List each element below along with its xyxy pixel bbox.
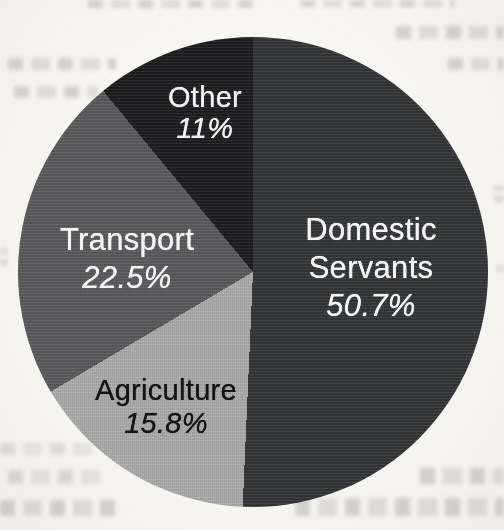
slice-percent-domestic-servants: 50.7% xyxy=(266,287,476,325)
slice-label-other: Other 11% xyxy=(130,82,280,144)
slice-name-domestic-servants: Domestic Servants xyxy=(266,211,476,287)
slice-label-agriculture: Agriculture 15.8% xyxy=(69,374,264,440)
slice-name-transport: Transport xyxy=(32,221,222,259)
slice-name-other: Other xyxy=(130,82,280,113)
slice-percent-agriculture: 15.8% xyxy=(69,407,264,440)
pie-chart-figure: Domestic Servants 50.7% Transport 22.5% … xyxy=(0,0,504,530)
slice-name-agriculture: Agriculture xyxy=(69,374,264,407)
scanned-book-page: Domestic Servants 50.7% Transport 22.5% … xyxy=(0,0,504,530)
slice-label-transport: Transport 22.5% xyxy=(32,221,222,297)
slice-percent-other: 11% xyxy=(130,113,280,144)
slice-label-domestic-servants: Domestic Servants 50.7% xyxy=(266,211,476,325)
slice-percent-transport: 22.5% xyxy=(32,259,222,297)
